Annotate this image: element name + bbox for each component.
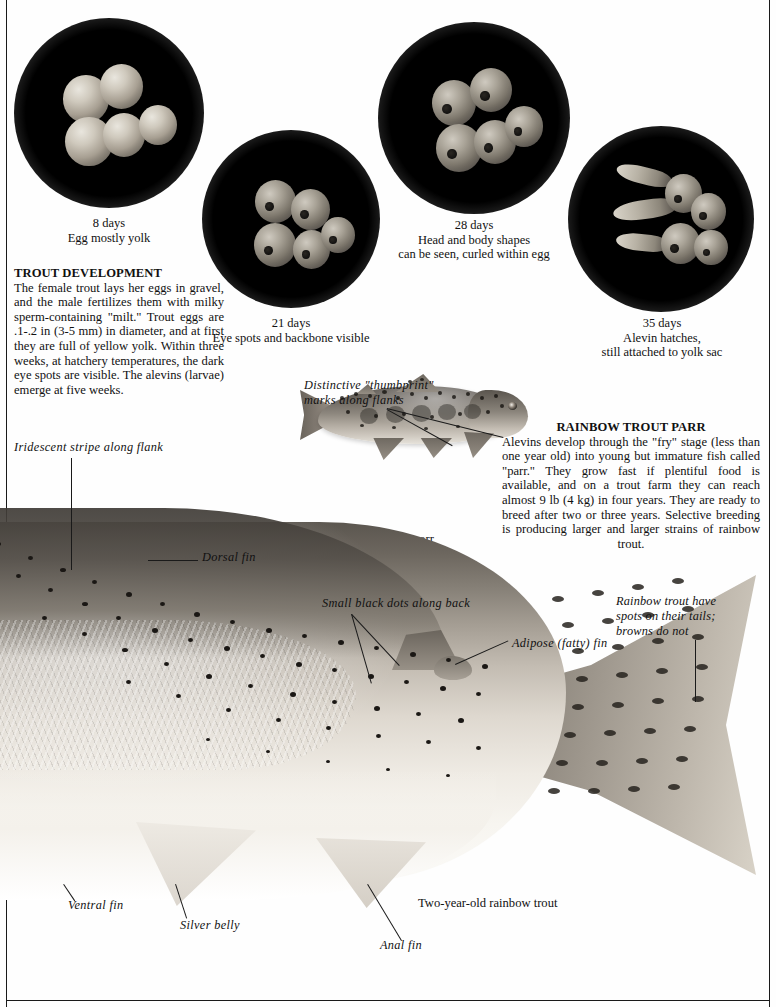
egg-eyespot (674, 195, 682, 204)
caption-description-line2: can be seen, curled within egg (374, 247, 574, 262)
egg (321, 217, 355, 253)
caption-day-label: 21 days (200, 316, 382, 331)
caption-day-label: 35 days (562, 316, 762, 331)
caption-description-line1: Alevin hatches, (562, 331, 762, 346)
egg-eyespot (670, 244, 679, 253)
egg-eyespot (265, 202, 274, 211)
egg-photo-8-days (14, 18, 204, 208)
egg-eyespot (442, 104, 452, 114)
caption-8-days: 8 days Egg mostly yolk (14, 216, 204, 245)
egg (254, 223, 297, 268)
annotation-ventral-fin: Ventral fin (68, 898, 123, 913)
parr-anal-fin (370, 438, 404, 460)
egg (694, 230, 727, 265)
caption-description: Egg mostly yolk (14, 231, 204, 246)
rainbow-trout-parr-heading: RAINBOW TROUT PARR (502, 420, 760, 435)
annotation-tail-spots-line1: Rainbow trout have (616, 594, 756, 609)
caption-28-days: 28 days Head and body shapes can be seen… (374, 218, 574, 262)
egg-eyespot (514, 127, 522, 136)
annotation-dorsal-fin: Dorsal fin (202, 550, 256, 565)
annotation-thumbprint-marks: Distinctive "thumbprint" marks along fla… (304, 378, 434, 408)
egg (691, 193, 726, 230)
caption-day-label: 28 days (374, 218, 574, 233)
caption-35-days: 35 days Alevin hatches, still attached t… (562, 316, 762, 360)
leader-line-tail-spots (695, 640, 696, 702)
caption-description: Eye spots and backbone visible (200, 331, 382, 346)
egg (100, 64, 144, 110)
annotation-thumbprint-line2: marks along flanks (304, 393, 434, 408)
egg-photo-28-days (378, 22, 570, 214)
caption-day-label: 8 days (14, 216, 204, 231)
egg-photo-inner (378, 22, 570, 214)
annotation-tail-spots-line2: spots on their tails; (616, 609, 756, 624)
trout-development-heading: TROUT DEVELOPMENT (14, 266, 224, 281)
leader-line-iridescent-stripe (71, 458, 72, 570)
egg-eyespot (302, 250, 310, 259)
egg-photo-21-days (202, 130, 380, 308)
egg-eyespot (484, 143, 493, 153)
egg (139, 105, 177, 145)
caption-description-line1: Head and body shapes (374, 233, 574, 248)
annotation-silver-belly: Silver belly (180, 918, 240, 933)
egg-photo-inner (14, 18, 204, 208)
caption-21-days: 21 days Eye spots and backbone visible (200, 316, 382, 345)
plate-page: 8 days Egg mostly yolk 21 days Eye spots… (0, 0, 776, 1007)
page-rule-bottom (6, 1000, 770, 1001)
egg-eyespot (447, 149, 457, 160)
egg-eyespot (300, 210, 309, 219)
parr-pectoral-fin (464, 432, 494, 458)
caption-description-line2: still attached to yolk sac (562, 345, 762, 360)
annotation-tail-spots-line3: browns do not (616, 624, 756, 639)
egg-eyespot (329, 236, 336, 244)
egg-eyespot (480, 91, 489, 101)
annotation-adipose-fin: Adipose (fatty) fin (512, 636, 607, 651)
annotation-tail-spots: Rainbow trout have spots on their tails;… (616, 594, 756, 639)
egg-eyespot (703, 249, 710, 257)
annotation-small-black-dots: Small black dots along back (322, 596, 470, 611)
trout-scale-texture (0, 620, 356, 770)
caption-two-year-old-rainbow-trout: Two-year-old rainbow trout (418, 896, 557, 911)
alevin (615, 160, 673, 190)
egg-eyespot (699, 212, 707, 220)
trout-development-body: The female trout lays her eggs in gravel… (14, 281, 224, 398)
annotation-iridescent-stripe: Iridescent stripe along flank (14, 440, 163, 455)
parr-eye (508, 402, 517, 410)
egg-photo-inner (568, 126, 754, 312)
trout-development-textblock: TROUT DEVELOPMENT The female trout lays … (14, 266, 224, 397)
egg (505, 106, 543, 146)
egg-photo-inner (202, 130, 380, 308)
egg (255, 180, 296, 223)
egg-eyespot (264, 246, 273, 256)
leader-line-dorsal-fin (148, 560, 198, 561)
egg-photo-35-days (568, 126, 754, 312)
parr-pelvic-fin (418, 438, 452, 458)
annotation-thumbprint-line1: Distinctive "thumbprint" (304, 378, 434, 393)
egg (470, 68, 512, 112)
